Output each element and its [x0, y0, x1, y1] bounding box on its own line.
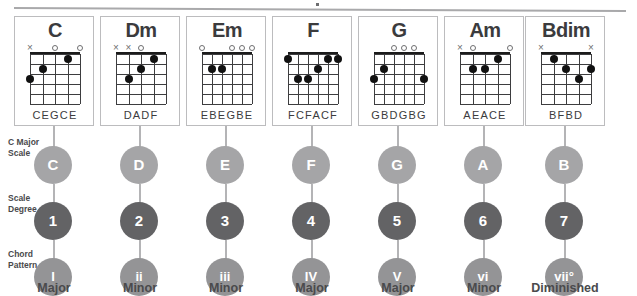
- chord-card-am[interactable]: AmAEACE: [444, 16, 524, 126]
- string-line: [394, 54, 395, 104]
- scale-note-bubble-label: D: [120, 146, 158, 184]
- string-line: [80, 54, 81, 104]
- chord-name: Dm: [101, 18, 181, 42]
- string-line: [414, 54, 415, 104]
- string-line: [222, 54, 223, 104]
- fret-line: [374, 54, 424, 55]
- string-line: [510, 54, 511, 104]
- fret-line: [30, 104, 80, 105]
- chord-name: Bdim: [526, 18, 606, 42]
- finger-dot: [494, 55, 502, 63]
- string-notes-label: CEGCE: [15, 109, 95, 122]
- finger-dot: [39, 65, 47, 73]
- chord-card-g[interactable]: GGBDGBG: [358, 16, 438, 126]
- fret-line: [288, 104, 338, 105]
- scale-degree-bubble-bdim[interactable]: 7: [545, 202, 583, 240]
- string-line: [252, 54, 253, 104]
- string-line: [384, 54, 385, 104]
- fret-line: [288, 94, 338, 95]
- fret-line: [374, 74, 424, 75]
- finger-dot: [562, 65, 570, 73]
- chord-column-em: EmEBEGBEE3iiiMinor: [186, 16, 268, 294]
- chord-quality-label: Diminished: [525, 281, 605, 295]
- string-notes-label: AEACE: [445, 109, 525, 122]
- string-line: [318, 54, 319, 104]
- finger-dot: [324, 55, 332, 63]
- string-notes-label: GBDGBG: [359, 109, 439, 122]
- scale-degree-bubble-label: 7: [545, 202, 583, 240]
- finger-dot: [284, 55, 292, 63]
- string-notes-label: DADF: [101, 109, 181, 122]
- chord-card-c[interactable]: CCEGCE: [14, 16, 94, 126]
- scale-degree-bubble-f[interactable]: 4: [292, 202, 330, 240]
- finger-dot: [469, 65, 477, 73]
- chord-card-bdim[interactable]: BdimBFBD: [525, 16, 605, 126]
- scale-degree-bubble-g[interactable]: 5: [378, 202, 416, 240]
- scale-note-bubble-dm[interactable]: D: [120, 146, 158, 184]
- scale-note-bubble-am[interactable]: A: [464, 146, 502, 184]
- chord-column-c: CCEGCEC1IMajor: [14, 16, 96, 294]
- fretboard-grid: [374, 54, 424, 104]
- string-notes-label: EBEGBE: [187, 109, 267, 122]
- string-line: [404, 54, 405, 104]
- finger-dot: [304, 75, 312, 83]
- chord-card-em[interactable]: EmEBEGBE: [186, 16, 266, 126]
- scale-degree-bubble-label: 1: [34, 202, 72, 240]
- fret-line: [374, 104, 424, 105]
- finger-dot: [370, 75, 378, 83]
- string-line: [473, 54, 474, 104]
- chord-name: G: [359, 18, 439, 42]
- fret-line: [374, 84, 424, 85]
- chord-column-dm: DmDADFD2iiMinor: [100, 16, 182, 294]
- scale-note-bubble-label: A: [464, 146, 502, 184]
- finger-dot: [294, 75, 302, 83]
- chord-quality-label: Major: [358, 281, 438, 295]
- fret-line: [288, 64, 338, 65]
- fret-line: [288, 54, 338, 55]
- scale-degree-bubble-em[interactable]: 3: [206, 202, 244, 240]
- scale-degree-bubble-c[interactable]: 1: [34, 202, 72, 240]
- chord-name: C: [15, 18, 95, 42]
- scale-note-bubble-g[interactable]: G: [378, 146, 416, 184]
- fret-line: [202, 54, 252, 55]
- scale-note-bubble-bdim[interactable]: B: [545, 146, 583, 184]
- fretboard-grid: [30, 54, 80, 104]
- string-line: [591, 54, 592, 104]
- string-notes-label: BFBD: [526, 109, 606, 122]
- scale-degree-bubble-label: 2: [120, 202, 158, 240]
- finger-dot: [420, 75, 428, 83]
- string-line: [485, 54, 486, 104]
- finger-dot: [587, 65, 595, 73]
- scale-note-bubble-label: C: [34, 146, 72, 184]
- chord-card-f[interactable]: FFCFACF: [272, 16, 352, 126]
- fret-line: [460, 104, 510, 105]
- scale-note-bubble-label: G: [378, 146, 416, 184]
- finger-dot: [208, 65, 216, 73]
- string-line: [541, 54, 542, 104]
- chord-quality-label: Major: [272, 281, 352, 295]
- scale-degree-bubble-dm[interactable]: 2: [120, 202, 158, 240]
- top-divider-rule: [14, 7, 626, 12]
- string-notes-label: FCFACF: [273, 109, 353, 122]
- chord-column-f: FFCFACFF4IVMajor: [272, 16, 354, 294]
- string-line: [566, 54, 567, 104]
- chord-name: Em: [187, 18, 267, 42]
- chord-card-dm[interactable]: DmDADF: [100, 16, 180, 126]
- string-line: [242, 54, 243, 104]
- scale-note-bubble-label: F: [292, 146, 330, 184]
- fret-line: [541, 104, 591, 105]
- scale-degree-bubble-am[interactable]: 6: [464, 202, 502, 240]
- chord-quality-label: Minor: [100, 281, 180, 295]
- scale-note-bubble-c[interactable]: C: [34, 146, 72, 184]
- fretboard-grid: [288, 54, 338, 104]
- finger-dot: [481, 65, 489, 73]
- finger-dot: [150, 55, 158, 63]
- chord-column-g: GGBDGBGG5VMajor: [358, 16, 440, 294]
- scale-note-bubble-em[interactable]: E: [206, 146, 244, 184]
- fretboard-grid: [541, 54, 591, 104]
- chord-quality-label: Major: [14, 281, 94, 295]
- scale-note-bubble-f[interactable]: F: [292, 146, 330, 184]
- scale-degree-bubble-label: 4: [292, 202, 330, 240]
- fretboard-grid: [202, 54, 252, 104]
